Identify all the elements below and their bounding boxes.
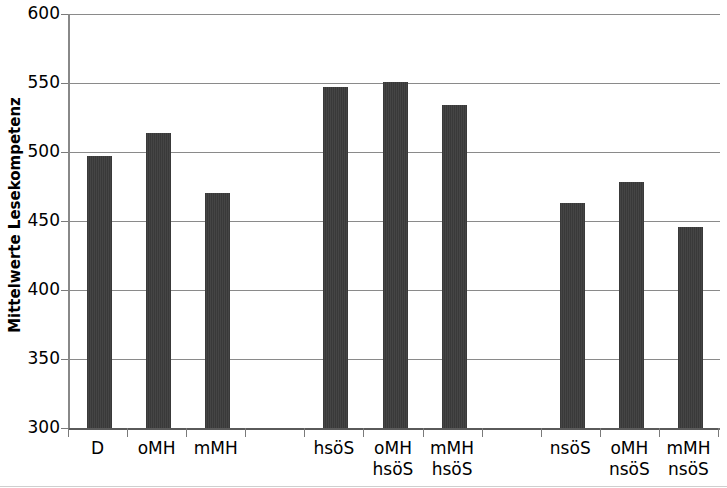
y-tick-mark-300	[61, 428, 68, 429]
y-tick-mark-400	[61, 290, 68, 291]
x-tick-mark-1	[127, 428, 128, 437]
x-tick-mark-10	[659, 428, 660, 437]
y-tick-mark-350	[61, 359, 68, 360]
x-tick-mark-4	[304, 428, 305, 437]
bar-hsöS	[323, 87, 348, 428]
x-tick-label-mMH: mMH	[171, 438, 261, 459]
x-tick-label-oMH-hsöS: oMH hsöS	[348, 438, 438, 480]
bottom-rule	[0, 486, 727, 487]
x-tick-label-D: D	[53, 438, 143, 459]
x-tick-label-hsöS: hsöS	[289, 438, 379, 459]
bar-D	[87, 156, 112, 428]
x-tick-mark-6	[423, 428, 424, 437]
bar-mMH	[205, 193, 230, 428]
x-tick-label-nsöS: nsöS	[525, 438, 615, 459]
y-axis-title-label: Mittelwerte Lesekompetenz	[6, 97, 24, 333]
plot-area	[68, 14, 720, 428]
bar-oMH-hsöS	[383, 82, 408, 428]
gridline-600	[70, 14, 720, 15]
x-tick-label-oMH: oMH	[112, 438, 202, 459]
x-tick-mark-0	[68, 428, 69, 437]
x-axis-line	[68, 428, 718, 430]
bar-mMH-nsöS	[678, 227, 703, 428]
x-tick-mark-9	[600, 428, 601, 437]
x-tick-label-mMH-hsöS: mMH hsöS	[407, 438, 497, 480]
bar-mMH-hsöS	[442, 105, 467, 428]
x-tick-mark-8	[541, 428, 542, 437]
bar-nsöS	[560, 203, 585, 428]
x-tick-label-oMH-nsöS: oMH nsöS	[584, 438, 674, 480]
x-tick-mark-2	[186, 428, 187, 437]
bar-chart: Mittelwerte Lesekompetenz 30035040045050…	[0, 0, 727, 488]
y-tick-mark-450	[61, 221, 68, 222]
x-tick-mark-5	[363, 428, 364, 437]
bar-oMH-nsöS	[619, 182, 644, 428]
x-tick-mark-7	[482, 428, 483, 437]
x-tick-label-mMH-nsöS: mMH nsöS	[643, 438, 727, 480]
y-tick-mark-550	[61, 83, 68, 84]
y-axis-title: Mittelwerte Lesekompetenz	[0, 0, 30, 430]
y-tick-mark-600	[61, 14, 68, 15]
x-tick-mark-11	[718, 428, 719, 437]
bar-oMH	[146, 133, 171, 428]
x-tick-mark-3	[245, 428, 246, 437]
y-tick-mark-500	[61, 152, 68, 153]
